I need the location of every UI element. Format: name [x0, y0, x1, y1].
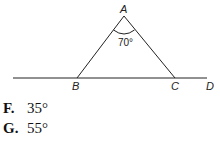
angle-arc-a: [114, 30, 135, 34]
point-c-label: C: [171, 80, 179, 92]
choice-letter: G.: [3, 118, 27, 138]
choice-g[interactable]: G. 55°: [3, 118, 48, 138]
answer-choices: F. 35° G. 55°: [3, 98, 48, 138]
point-a-label: A: [119, 3, 127, 15]
choice-letter: F.: [3, 98, 27, 118]
triangle-diagram: 70° A B C D: [0, 0, 220, 95]
choice-f[interactable]: F. 35°: [3, 98, 48, 118]
choice-value: 55°: [27, 118, 48, 138]
choice-value: 35°: [27, 98, 48, 118]
segment-ab: [77, 16, 124, 78]
angle-a-label: 70°: [118, 37, 133, 48]
point-b-label: B: [72, 80, 79, 92]
point-d-label: D: [206, 80, 214, 92]
